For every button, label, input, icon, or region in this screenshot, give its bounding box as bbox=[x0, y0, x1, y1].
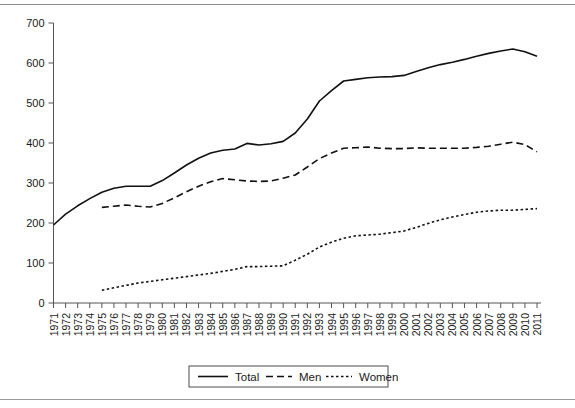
legend-label-women[interactable]: Women bbox=[359, 371, 398, 383]
x-tick-label: 1973 bbox=[72, 313, 84, 337]
x-tick-label: 1991 bbox=[289, 313, 301, 337]
x-tick-label: 1978 bbox=[132, 313, 144, 337]
x-tick-label: 2008 bbox=[495, 313, 507, 337]
x-tick-label: 2002 bbox=[422, 313, 434, 337]
y-axis-tick-labels: 0100200300400500600700 bbox=[26, 17, 44, 309]
line-chart-plot: 1971197219731974197519761977197819791980… bbox=[0, 6, 575, 396]
x-tick-label: 1994 bbox=[326, 313, 338, 337]
x-tick-label: 1985 bbox=[217, 313, 229, 337]
chart-figure: 1971197219731974197519761977197819791980… bbox=[0, 0, 575, 408]
x-tick-label: 1975 bbox=[96, 313, 108, 337]
x-tick-label: 1988 bbox=[253, 313, 265, 337]
x-tick-label: 1972 bbox=[60, 313, 72, 337]
x-tick-label: 2000 bbox=[398, 313, 410, 337]
x-tick-label: 1999 bbox=[386, 313, 398, 337]
x-tick-label: 1974 bbox=[84, 313, 96, 337]
x-tick-label: 2007 bbox=[483, 313, 495, 337]
x-tick-label: 1989 bbox=[265, 313, 277, 337]
x-tick-label: 1980 bbox=[156, 313, 168, 337]
x-tick-label: 1981 bbox=[168, 313, 180, 337]
x-tick-label: 1990 bbox=[277, 313, 289, 337]
y-tick-label: 100 bbox=[26, 257, 44, 269]
series-line-total bbox=[54, 49, 538, 225]
x-tick-label: 2011 bbox=[531, 313, 543, 336]
x-tick-label: 1979 bbox=[144, 313, 156, 337]
y-tick-label: 0 bbox=[38, 297, 44, 309]
x-tick-label: 2004 bbox=[446, 313, 458, 337]
y-tick-label: 300 bbox=[26, 177, 44, 189]
y-tick-label: 700 bbox=[26, 17, 44, 29]
x-tick-label: 1983 bbox=[193, 313, 205, 337]
x-tick-label: 1995 bbox=[338, 313, 350, 337]
x-tick-label: 1993 bbox=[313, 313, 325, 337]
x-axis-tick-labels: 1971197219731974197519761977197819791980… bbox=[48, 313, 544, 337]
x-tick-label: 1992 bbox=[301, 313, 313, 337]
legend-label-men[interactable]: Men bbox=[299, 371, 321, 383]
y-tick-label: 600 bbox=[26, 57, 44, 69]
x-tick-label: 1971 bbox=[48, 313, 60, 337]
series-line-men bbox=[102, 142, 537, 207]
x-tick-label: 1976 bbox=[108, 313, 120, 337]
x-tick-label: 2005 bbox=[458, 313, 470, 337]
x-tick-label: 2001 bbox=[410, 313, 422, 337]
x-tick-label: 1984 bbox=[205, 313, 217, 337]
y-tick-label: 400 bbox=[26, 137, 44, 149]
y-tick-label: 200 bbox=[26, 217, 44, 229]
x-tick-label: 1982 bbox=[180, 313, 192, 337]
chart-legend[interactable]: TotalMenWomen bbox=[189, 366, 398, 387]
x-tick-label: 2006 bbox=[471, 313, 483, 337]
x-tick-label: 2009 bbox=[507, 313, 519, 337]
series-line-women bbox=[102, 209, 537, 291]
x-tick-label: 2010 bbox=[519, 313, 531, 337]
bottom-rule-divider bbox=[0, 399, 575, 400]
x-tick-label: 1997 bbox=[362, 313, 374, 337]
x-tick-label: 1986 bbox=[229, 313, 241, 337]
legend-label-total[interactable]: Total bbox=[235, 371, 259, 383]
axes-group bbox=[49, 23, 542, 308]
x-tick-label: 1998 bbox=[374, 313, 386, 337]
x-tick-label: 1977 bbox=[120, 313, 132, 337]
y-tick-label: 500 bbox=[26, 97, 44, 109]
x-tick-label: 1987 bbox=[241, 313, 253, 337]
top-rule-divider bbox=[0, 4, 575, 5]
x-tick-label: 2003 bbox=[434, 313, 446, 337]
series-group bbox=[54, 49, 538, 290]
x-tick-label: 1996 bbox=[350, 313, 362, 337]
